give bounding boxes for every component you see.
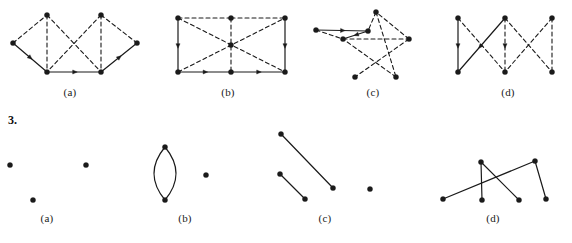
- graph-vertex: [367, 186, 372, 191]
- graph-edge: [535, 161, 546, 199]
- figure-caption-top-c: (c): [367, 86, 380, 98]
- edge-arrowhead: [456, 44, 460, 49]
- graph-vertex: [313, 27, 318, 32]
- graph-vertex: [478, 159, 483, 164]
- figure-top-c-edges: [316, 12, 409, 77]
- graph-vertex: [98, 69, 103, 74]
- figure-caption-bot-b: (b): [178, 212, 191, 224]
- graph-vertex: [549, 15, 554, 20]
- figure-bot-a: [7, 162, 88, 202]
- figure-sheet: 3. (a)(b)(c)(d)(a)(b)(c)(d): [0, 0, 572, 243]
- edge-arrowhead: [73, 70, 78, 74]
- graph-vertex: [278, 131, 283, 136]
- graph-edge: [443, 161, 535, 199]
- figure-bot-c-vertices: [277, 131, 372, 201]
- figure-bot-d: [440, 158, 548, 202]
- row-bottom-simple-graphs: [7, 131, 548, 202]
- edge-arrowhead: [341, 28, 346, 32]
- figure-bot-b-edges: [154, 147, 176, 200]
- figure-top-c-vertices: [313, 9, 411, 79]
- graph-edge: [101, 15, 137, 43]
- graph-vertex: [330, 185, 335, 190]
- graph-edge: [316, 30, 343, 39]
- edge-arrowhead: [257, 70, 262, 74]
- graph-vertex: [502, 15, 507, 20]
- figure-top-b: [175, 15, 287, 74]
- graph-vertex: [440, 196, 445, 201]
- graph-edge: [355, 39, 409, 77]
- graph-edge: [280, 174, 305, 199]
- graph-vertex: [162, 197, 167, 202]
- figure-caption-top-a: (a): [64, 86, 77, 98]
- graph-vertex: [365, 28, 370, 33]
- graph-vertex: [44, 69, 49, 74]
- graph-figures-canvas: [0, 0, 572, 243]
- figure-bot-b: [154, 144, 209, 202]
- graph-edge: [376, 12, 396, 77]
- row-top-directed-multigraphs: [10, 9, 554, 79]
- graph-vertex: [83, 162, 88, 167]
- graph-vertex: [455, 15, 460, 20]
- figure-top-b-vertices: [175, 15, 287, 74]
- figure-bot-c: [277, 131, 372, 201]
- edge-arrowhead: [354, 32, 359, 36]
- figure-caption-top-d: (d): [501, 86, 514, 98]
- graph-edge: [343, 39, 396, 77]
- graph-edge: [481, 162, 482, 200]
- figure-caption-bot-a: (a): [41, 212, 54, 224]
- graph-vertex: [203, 172, 208, 177]
- graph-vertex: [277, 171, 282, 176]
- edge-arrowhead: [203, 70, 208, 74]
- graph-edge: [165, 147, 176, 200]
- graph-vertex: [479, 197, 484, 202]
- graph-vertex: [302, 196, 307, 201]
- graph-vertex: [532, 158, 537, 163]
- graph-vertex: [30, 197, 35, 202]
- edge-arrowhead: [503, 44, 507, 49]
- graph-vertex: [352, 74, 357, 79]
- graph-vertex: [406, 36, 411, 41]
- graph-edge: [13, 15, 47, 43]
- figure-top-a-vertices: [10, 12, 139, 74]
- graph-edge: [376, 12, 409, 39]
- graph-vertex: [228, 42, 233, 47]
- figure-caption-bot-c: (c): [319, 212, 332, 224]
- figure-bot-c-edges: [280, 134, 333, 199]
- figure-top-d: [455, 15, 554, 74]
- figure-caption-top-b: (b): [221, 86, 234, 98]
- graph-vertex: [10, 40, 15, 45]
- figure-top-d-edges: [456, 18, 552, 72]
- graph-vertex: [549, 69, 554, 74]
- graph-vertex: [7, 162, 12, 167]
- graph-vertex: [502, 69, 507, 74]
- figure-top-c: [313, 9, 411, 79]
- graph-edge: [281, 134, 333, 188]
- graph-vertex: [44, 12, 49, 17]
- graph-vertex: [175, 15, 180, 20]
- graph-vertex: [543, 196, 548, 201]
- graph-vertex: [162, 144, 167, 149]
- graph-vertex: [175, 69, 180, 74]
- graph-vertex: [282, 15, 287, 20]
- figure-bot-a-vertices: [7, 162, 88, 202]
- figure-top-a: [10, 12, 139, 74]
- graph-edge: [154, 147, 165, 200]
- graph-vertex: [393, 74, 398, 79]
- figure-bot-d-vertices: [440, 158, 548, 202]
- edge-arrowhead: [283, 44, 287, 49]
- graph-vertex: [373, 9, 378, 14]
- figure-top-a-edges: [13, 15, 137, 74]
- edge-arrowhead: [176, 44, 180, 49]
- graph-vertex: [228, 69, 233, 74]
- graph-edge: [368, 12, 376, 31]
- graph-vertex: [134, 40, 139, 45]
- graph-vertex: [98, 12, 103, 17]
- graph-vertex: [516, 197, 521, 202]
- graph-vertex: [455, 69, 460, 74]
- figure-bot-d-edges: [443, 161, 546, 200]
- figure-caption-bot-d: (d): [486, 212, 499, 224]
- graph-vertex: [228, 15, 233, 20]
- graph-vertex: [340, 36, 345, 41]
- graph-vertex: [282, 69, 287, 74]
